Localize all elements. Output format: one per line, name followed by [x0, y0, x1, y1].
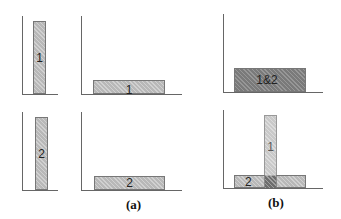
bar-2-tall: 2	[35, 117, 48, 190]
axis-y	[81, 16, 82, 94]
bar-label: 2	[245, 175, 252, 189]
caption-b: (b)	[268, 195, 284, 211]
axis-y	[223, 14, 224, 92]
bar-label: 1	[267, 140, 274, 154]
bar-label: 2	[38, 147, 45, 161]
bar-label: 1&2	[256, 73, 277, 87]
axis-x	[223, 188, 323, 189]
bar-label: 1	[36, 51, 43, 65]
axis-y	[22, 16, 23, 94]
bar-1-and-2: 1&2	[234, 68, 306, 92]
bar-1-wide: 1	[93, 80, 165, 94]
axis-x	[81, 190, 182, 191]
axis-y	[22, 112, 23, 190]
bar-label: 1	[126, 83, 133, 97]
bar-overlap	[265, 176, 276, 188]
axis-x	[22, 94, 58, 95]
bar-label: 2	[126, 176, 133, 190]
caption-a: (a)	[126, 197, 141, 213]
axis-y	[223, 110, 224, 188]
diagram: 1 1 2 2 (a) 1&2 2 1 (b)	[0, 0, 341, 219]
bar-2-wide: 2	[94, 176, 165, 190]
axis-x	[223, 92, 323, 93]
axis-y	[81, 112, 82, 190]
bar-1-tall: 1	[33, 21, 46, 94]
axis-x	[22, 190, 58, 191]
